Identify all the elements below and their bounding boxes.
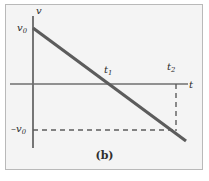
negative-v0-axis-label: –v0 [11, 124, 26, 136]
neg-v0-base: –v [11, 123, 22, 134]
figure-caption: (b) [0, 149, 209, 162]
v-axis-label: v [36, 6, 42, 16]
v0-axis-label: v0 [17, 23, 27, 35]
neg-v0-subscript: 0 [22, 128, 26, 136]
velocity-time-figure: v v0 –v0 t1 t2 t (b) [0, 0, 209, 181]
t2-subscript: 2 [171, 66, 175, 74]
t-axis-label: t [189, 80, 193, 90]
t1-tick-label: t1 [104, 65, 112, 77]
t1-subscript: 1 [108, 69, 112, 77]
t2-tick-label: t2 [167, 62, 175, 74]
v0-subscript: 0 [23, 27, 27, 35]
